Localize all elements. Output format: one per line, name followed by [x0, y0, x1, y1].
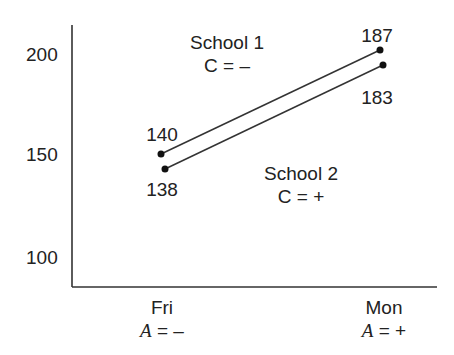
- x-sublabel-mon: A = +: [362, 321, 406, 340]
- point-school-2-fri: [162, 166, 169, 173]
- y-tick-200: 200: [26, 45, 58, 64]
- series-line-school-1: [161, 50, 380, 154]
- series-label-school-2: School 2: [264, 164, 338, 183]
- point-school-1-mon: [377, 47, 384, 54]
- factor-a-level: = –: [152, 320, 184, 341]
- factor-a-level: = +: [373, 320, 406, 341]
- series-sublabel-school-1: C = –: [204, 56, 250, 75]
- value-label-school-1-mon: 187: [361, 26, 393, 45]
- value-label-school-2-mon: 183: [361, 88, 393, 107]
- series-sublabel-school-2: C = +: [278, 187, 324, 206]
- x-tick-mon: Mon: [366, 298, 403, 317]
- series-line-school-2: [165, 65, 383, 169]
- y-tick-150: 150: [26, 145, 58, 164]
- x-tick-fri: Fri: [151, 298, 173, 317]
- factor-a-symbol: A: [362, 320, 374, 341]
- value-label-school-1-fri: 140: [146, 125, 178, 144]
- y-tick-100: 100: [26, 248, 58, 267]
- value-label-school-2-fri: 138: [146, 180, 178, 199]
- point-school-1-fri: [158, 151, 165, 158]
- series-label-school-1: School 1: [190, 33, 264, 52]
- x-sublabel-fri: A = –: [140, 321, 184, 340]
- point-school-2-mon: [380, 62, 387, 69]
- factor-a-symbol: A: [140, 320, 152, 341]
